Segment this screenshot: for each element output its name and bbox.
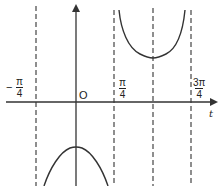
graph-canvas bbox=[0, 0, 219, 186]
tick-denominator: 4 bbox=[119, 88, 127, 100]
tick-label-pi-4: π 4 bbox=[118, 77, 127, 100]
tick-numerator: π bbox=[118, 77, 127, 88]
upper-curve-branch bbox=[119, 10, 185, 58]
origin-label: O bbox=[79, 90, 88, 101]
tick-denominator: 4 bbox=[195, 88, 203, 100]
x-axis-label: t bbox=[209, 109, 213, 119]
tick-denominator: 4 bbox=[16, 87, 24, 99]
tick-label-neg-pi-4: π 4 bbox=[15, 76, 24, 99]
neg-sign: − bbox=[6, 81, 12, 93]
tick-label-3pi-4: 3π 4 bbox=[192, 77, 206, 100]
tick-numerator: 3π bbox=[192, 77, 206, 88]
tick-numerator: π bbox=[15, 76, 24, 87]
